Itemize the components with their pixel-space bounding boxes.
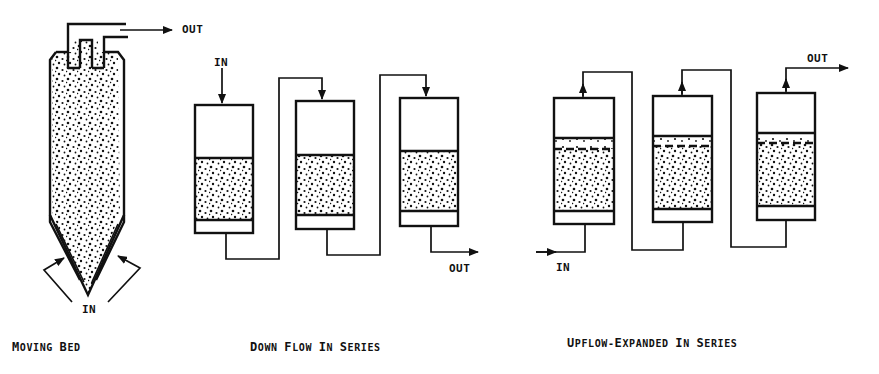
moving-bed-in-arrow-right <box>108 256 140 302</box>
down-flow-in-label: IN <box>214 56 228 69</box>
upflow-in-arrow <box>536 224 585 252</box>
down-flow-column-1 <box>195 105 253 233</box>
moving-bed-out-label: OUT <box>182 23 203 36</box>
moving-bed-group: OUT IN MOVING BED <box>12 23 203 354</box>
moving-bed-in-label: IN <box>82 303 96 316</box>
upflow-caption: UPFLOW-EXPANDED IN SERIES <box>567 336 737 350</box>
down-flow-column-2 <box>296 101 354 229</box>
down-flow-column-3 <box>400 98 458 226</box>
upflow-column-2 <box>653 96 712 222</box>
down-flow-out-label: OUT <box>449 262 470 275</box>
upflow-expanded-group: IN OUT UPFLOW-EXPANDED IN SERIES <box>536 52 848 350</box>
moving-bed-caption: MOVING BED <box>12 340 81 354</box>
moving-bed-in-arrow-left <box>44 258 72 302</box>
upflow-column-1 <box>554 98 614 224</box>
upflow-out-arrow <box>786 68 848 91</box>
adsorber-configurations-diagram: OUT IN MOVING BED <box>0 0 879 374</box>
down-flow-caption: DOWN FLOW IN SERIES <box>250 340 381 354</box>
down-flow-group: IN OUT DOWN FLOW IN SERIES <box>195 56 478 354</box>
upflow-in-label: IN <box>556 261 570 274</box>
down-flow-out-arrow <box>431 226 478 252</box>
upflow-out-label: OUT <box>807 52 828 65</box>
upflow-column-3 <box>757 93 815 220</box>
moving-bed-media <box>52 40 120 292</box>
